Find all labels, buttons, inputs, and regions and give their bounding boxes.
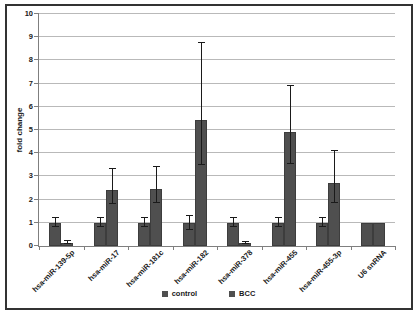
error-cap-top-control-hsa-miR-17 [97, 217, 104, 218]
y-tick-label-3: 3 [12, 172, 33, 180]
gridline-7 [39, 83, 395, 84]
y-tick-label-7: 7 [12, 80, 33, 88]
error-cap-top-BCC-hsa-miR-181c [153, 166, 160, 167]
error-cap-top-BCC-hsa-miR-455-3p [331, 150, 338, 151]
y-tick-label-9: 9 [12, 33, 33, 41]
bar-control-U6 snRNA [361, 223, 373, 246]
error-bar-BCC-hsa-miR-181c [156, 167, 157, 203]
gridline-8 [39, 59, 395, 60]
y-tick-label-10: 10 [12, 10, 33, 18]
legend-swatch-BCC [229, 291, 235, 297]
error-bar-BCC-hsa-miR-182 [201, 43, 202, 165]
error-cap-bottom-control-hsa-miR-182 [186, 229, 193, 230]
x-label-hsa-miR-17: hsa-miR-17 [86, 248, 121, 283]
gridline-1 [39, 222, 395, 223]
error-cap-top-BCC-hsa-miR-182 [198, 42, 205, 43]
y-tick-label-5: 5 [12, 126, 33, 134]
y-tick-3 [34, 175, 39, 176]
error-cap-bottom-control-hsa-miR-181c [141, 226, 148, 227]
y-tick-2 [34, 199, 39, 200]
y-tick-7 [34, 83, 39, 84]
gridline-4 [39, 152, 395, 153]
legend-label-control: control [172, 289, 197, 298]
x-tick-8 [395, 246, 396, 250]
error-cap-bottom-BCC-hsa-miR-181c [153, 202, 160, 203]
x-label-hsa-miR-181c: hsa-miR-181c [125, 248, 166, 289]
error-cap-top-BCC-hsa-miR-17 [109, 168, 116, 169]
error-cap-bottom-BCC-hsa-miR-182 [198, 164, 205, 165]
x-label-hsa-miR-182: hsa-miR-182 [172, 248, 210, 286]
y-tick-6 [34, 106, 39, 107]
legend-label-BCC: BCC [239, 289, 255, 298]
error-cap-bottom-BCC-hsa-miR-378 [242, 243, 249, 244]
error-cap-top-control-hsa-miR-378 [230, 217, 237, 218]
error-cap-top-BCC-hsa-miR-378 [242, 241, 249, 242]
y-tick-label-1: 1 [12, 219, 33, 227]
error-cap-bottom-BCC-hsa-miR-17 [109, 203, 116, 204]
y-tick-5 [34, 129, 39, 130]
error-cap-bottom-BCC-hsa-miR-139-5p [64, 243, 71, 244]
y-tick-label-0: 0 [12, 242, 33, 250]
error-cap-bottom-control-hsa-miR-17 [97, 226, 104, 227]
legend-swatch-control [162, 291, 168, 297]
error-cap-top-BCC-hsa-miR-455 [287, 85, 294, 86]
y-tick-label-2: 2 [12, 196, 33, 204]
error-cap-bottom-BCC-hsa-miR-455-3p [331, 202, 338, 203]
figure: fold change 012345678910 hsa-miR-139-5ph… [0, 0, 417, 317]
y-tick-label-4: 4 [12, 149, 33, 157]
error-cap-top-control-hsa-miR-455-3p [319, 217, 326, 218]
error-cap-top-control-hsa-miR-139-5p [52, 217, 59, 218]
error-cap-bottom-control-hsa-miR-378 [230, 226, 237, 227]
y-tick-10 [34, 13, 39, 14]
gridline-10 [39, 13, 395, 14]
y-tick-1 [34, 222, 39, 223]
x-label-hsa-miR-378: hsa-miR-378 [217, 248, 255, 286]
error-cap-top-control-hsa-miR-455 [275, 217, 282, 218]
plot-area: 012345678910 [38, 14, 395, 247]
bar-BCC-U6 snRNA [373, 223, 385, 246]
x-label-hsa-miR-139-5p: hsa-miR-139-5p [31, 248, 77, 294]
error-bar-BCC-hsa-miR-17 [112, 169, 113, 204]
gridline-5 [39, 129, 395, 130]
gridline-9 [39, 36, 395, 37]
legend-item-control: control [162, 289, 197, 298]
y-tick-8 [34, 59, 39, 60]
error-bar-BCC-hsa-miR-455-3p [334, 151, 335, 203]
legend-item-BCC: BCC [229, 289, 255, 298]
x-label-hsa-miR-455: hsa-miR-455 [261, 248, 299, 286]
error-cap-top-control-hsa-miR-182 [186, 215, 193, 216]
error-bar-control-hsa-miR-182 [189, 216, 190, 230]
y-tick-4 [34, 152, 39, 153]
legend: controlBCC [0, 289, 417, 298]
error-cap-top-control-hsa-miR-181c [141, 217, 148, 218]
y-tick-label-8: 8 [12, 56, 33, 64]
y-tick-label-6: 6 [12, 103, 33, 111]
y-tick-9 [34, 36, 39, 37]
error-bar-BCC-hsa-miR-455 [290, 86, 291, 164]
error-cap-bottom-control-hsa-miR-455 [275, 226, 282, 227]
error-cap-top-BCC-hsa-miR-139-5p [64, 240, 71, 241]
gridline-6 [39, 106, 395, 107]
gridline-2 [39, 199, 395, 200]
error-cap-bottom-control-hsa-miR-139-5p [52, 226, 59, 227]
gridline-3 [39, 175, 395, 176]
error-cap-bottom-control-hsa-miR-455-3p [319, 226, 326, 227]
error-cap-bottom-BCC-hsa-miR-455 [287, 163, 294, 164]
x-label-U6 snRNA: U6 snRNA [356, 248, 388, 280]
x-label-hsa-miR-455-3p: hsa-miR-455-3p [298, 248, 344, 294]
